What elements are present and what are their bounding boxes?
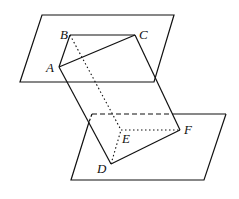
lower-plane bbox=[71, 114, 226, 180]
label-C: C bbox=[139, 27, 148, 42]
upper-plane bbox=[20, 15, 174, 82]
label-E: E bbox=[121, 131, 130, 146]
diagram-canvas: A B C D E F bbox=[0, 0, 239, 199]
edge-CA bbox=[59, 35, 135, 67]
label-D: D bbox=[96, 161, 107, 176]
label-B: B bbox=[60, 27, 68, 42]
edge-DE bbox=[111, 130, 121, 164]
geometry-diagram: A B C D E F bbox=[0, 0, 239, 199]
label-A: A bbox=[45, 60, 54, 75]
lower-plane-left-edge-hidden bbox=[89, 114, 92, 122]
label-F: F bbox=[183, 122, 193, 137]
